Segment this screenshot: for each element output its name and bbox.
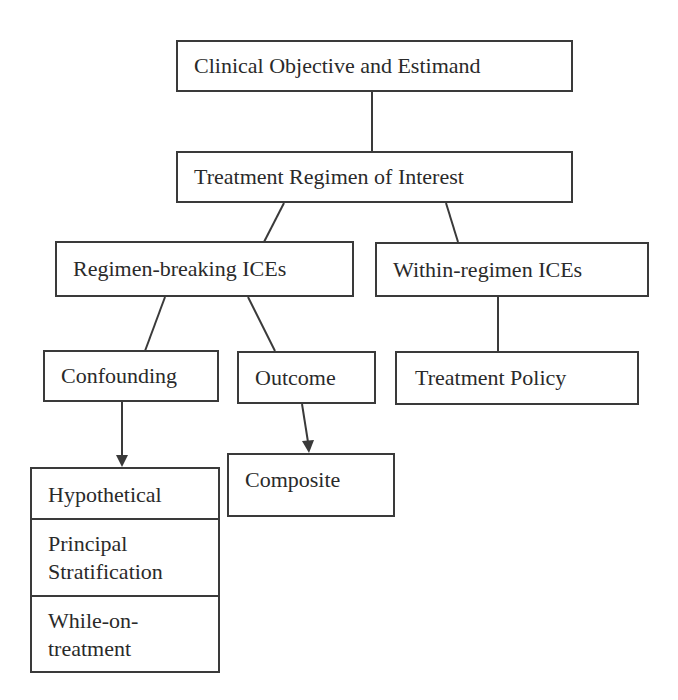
- node-strategies-stack: Hypothetical Principal Stratification Wh…: [30, 467, 220, 673]
- node-confounding: Confounding: [43, 350, 219, 402]
- edge-regimen-within-regimen: [446, 203, 458, 242]
- node-treatment-regimen: Treatment Regimen of Interest: [176, 151, 573, 203]
- strategy-while-on-treatment: While-on- treatment: [32, 595, 218, 671]
- strategy-label-line1: While-on-: [48, 607, 218, 635]
- strategy-label-line1: Principal: [48, 530, 218, 558]
- node-outcome: Outcome: [237, 351, 376, 404]
- arrowhead-icon: [116, 455, 128, 467]
- node-label: Regimen-breaking ICEs: [57, 256, 352, 282]
- strategy-label-line2: treatment: [48, 635, 218, 663]
- edge-regimen-regimen-breaking: [264, 203, 284, 242]
- node-composite: Composite: [227, 453, 395, 517]
- node-within-regimen-ices: Within-regimen ICEs: [375, 242, 649, 297]
- strategy-label-line2: Stratification: [48, 558, 218, 586]
- arrow-outcome-composite: [302, 404, 308, 442]
- node-label: Treatment Regimen of Interest: [178, 164, 571, 190]
- strategy-hypothetical: Hypothetical: [32, 469, 218, 520]
- node-label: Clinical Objective and Estimand: [178, 53, 571, 79]
- edge-regimen-breaking-outcome: [248, 297, 275, 351]
- node-treatment-policy: Treatment Policy: [395, 351, 639, 405]
- strategy-principal-stratification: Principal Stratification: [32, 518, 218, 596]
- arrowhead-icon: [302, 440, 314, 453]
- node-regimen-breaking-ices: Regimen-breaking ICEs: [55, 241, 354, 297]
- node-label: Within-regimen ICEs: [377, 257, 647, 283]
- node-label: Treatment Policy: [397, 365, 637, 391]
- node-label: Confounding: [45, 363, 217, 389]
- node-label: Outcome: [239, 365, 374, 391]
- node-clinical-objective: Clinical Objective and Estimand: [176, 40, 573, 92]
- edge-regimen-breaking-confounding: [145, 297, 165, 351]
- node-label: Composite: [229, 467, 393, 493]
- strategy-label: Hypothetical: [48, 482, 162, 507]
